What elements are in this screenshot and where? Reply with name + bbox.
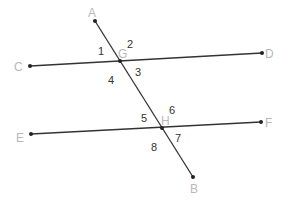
label-a: A [88,6,96,20]
point-b [191,175,195,179]
angle-2: 2 [127,38,133,50]
angle-3: 3 [135,66,141,78]
line-cd [30,53,262,66]
point-c [28,64,32,68]
point-e [29,132,33,136]
angle-6: 6 [169,104,175,116]
point-f [259,120,263,124]
label-f: F [265,116,272,130]
angle-1: 1 [98,45,104,57]
label-d: D [265,47,274,61]
angle-5: 5 [141,112,147,124]
segments [30,21,262,177]
label-b: B [190,182,198,196]
angle-8: 8 [151,141,157,153]
angle-4: 4 [108,74,114,86]
angle-7: 7 [175,132,181,144]
label-e: E [16,131,24,145]
points [28,19,264,179]
point-labels: A B C D E F G H [14,6,274,196]
geometry-diagram: A B C D E F G H 1 2 3 4 5 6 7 8 [0,0,284,203]
point-d [260,51,264,55]
diagram-svg: A B C D E F G H 1 2 3 4 5 6 7 8 [0,0,284,203]
transversal-ab [95,21,193,177]
label-h: H [161,114,170,128]
angle-labels: 1 2 3 4 5 6 7 8 [98,38,181,153]
label-g: G [118,47,127,61]
label-c: C [14,60,23,74]
